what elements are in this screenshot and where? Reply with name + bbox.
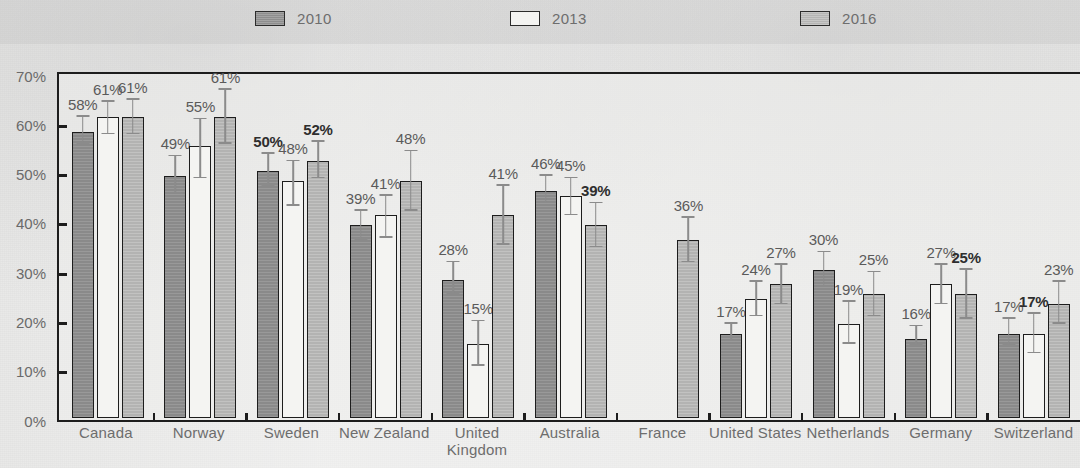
error-bar-cap-lower xyxy=(817,285,830,287)
bar[interactable] xyxy=(492,215,514,417)
bar-slot: 46% xyxy=(535,74,557,418)
bar[interactable] xyxy=(770,284,792,417)
x-axis-label-line1: Australia xyxy=(523,424,616,441)
bar[interactable] xyxy=(560,196,582,418)
bar[interactable] xyxy=(282,181,304,418)
error-bar xyxy=(317,142,319,179)
bar[interactable] xyxy=(189,146,211,417)
bar-value-label: 19% xyxy=(834,281,863,298)
x-axis-label: Germany xyxy=(894,424,987,468)
error-bar-cap-upper xyxy=(960,268,973,270)
bar[interactable] xyxy=(72,132,94,418)
error-bar-cap-lower xyxy=(194,177,207,179)
error-bar xyxy=(200,119,202,178)
error-bar-cap-upper xyxy=(354,209,367,211)
error-bar-cap-upper xyxy=(126,98,139,100)
bar-value-label: 23% xyxy=(1044,261,1073,278)
error-bar xyxy=(82,117,84,144)
error-bar-cap-lower xyxy=(724,340,737,342)
error-bar-cap-upper xyxy=(219,88,232,90)
bar[interactable] xyxy=(122,117,144,418)
error-bar-cap-lower xyxy=(261,184,274,186)
bar-group: 17%24%27% xyxy=(710,74,803,418)
bar[interactable] xyxy=(677,240,699,417)
bar[interactable] xyxy=(535,191,557,418)
error-bar-cap-lower xyxy=(910,344,923,346)
x-axis-label: Netherlands xyxy=(802,424,895,468)
bar-value-label: 15% xyxy=(463,300,492,317)
error-bar-cap-upper xyxy=(101,100,114,102)
error-bar-cap-upper xyxy=(447,261,460,263)
error-bar-cap-upper xyxy=(1052,280,1065,282)
error-bar-cap-lower xyxy=(1052,322,1065,324)
bar[interactable] xyxy=(720,334,742,418)
error-bar-cap-lower xyxy=(286,204,299,206)
bar[interactable] xyxy=(905,339,927,418)
y-axis-tick-label: 60% xyxy=(2,117,46,134)
bar-slot: 16% xyxy=(905,74,927,418)
bar[interactable] xyxy=(97,117,119,418)
bar[interactable] xyxy=(375,215,397,417)
bar[interactable] xyxy=(350,225,372,417)
bar[interactable] xyxy=(307,161,329,417)
legend-item-2013[interactable]: 2013 xyxy=(510,10,587,27)
y-axis-tick-label: 0% xyxy=(2,413,46,430)
error-bar xyxy=(688,218,690,262)
x-axis-label: United States xyxy=(709,424,802,468)
swatch-2010-icon xyxy=(255,11,285,26)
bar[interactable] xyxy=(400,181,422,418)
error-bar xyxy=(107,102,109,134)
bar-group: 36% xyxy=(617,74,710,418)
error-bar-cap-upper xyxy=(935,263,948,265)
x-axis-label: Canada xyxy=(60,424,153,468)
error-bar-cap-upper xyxy=(749,280,762,282)
legend-label: 2016 xyxy=(842,10,877,27)
error-bar xyxy=(385,196,387,238)
bar-slot: 27% xyxy=(770,74,792,418)
bar-slot: 28% xyxy=(442,74,464,418)
bar-value-label: 45% xyxy=(556,157,585,174)
bar[interactable] xyxy=(813,270,835,418)
x-axis-labels: CanadaNorwaySwedenNew ZealandUnitedKingd… xyxy=(60,424,1080,468)
legend-item-2010[interactable]: 2010 xyxy=(255,10,332,27)
error-bar xyxy=(915,326,917,346)
bar[interactable] xyxy=(214,117,236,418)
legend-item-2016[interactable]: 2016 xyxy=(800,10,877,27)
error-bar-cap-upper xyxy=(564,177,577,179)
swatch-2016-icon xyxy=(800,11,830,26)
bar-slot: 30% xyxy=(813,74,835,418)
error-bar-cap-lower xyxy=(867,315,880,317)
bar-slot: 48% xyxy=(400,74,422,418)
bar[interactable] xyxy=(442,280,464,418)
bar-slot xyxy=(627,74,649,418)
bar-slot: 58% xyxy=(72,74,94,418)
error-bar-cap-upper xyxy=(589,202,602,204)
bar[interactable] xyxy=(998,334,1020,418)
y-axis-tick-label: 50% xyxy=(2,166,46,183)
bar[interactable] xyxy=(745,299,767,417)
error-bar-cap-lower xyxy=(539,202,552,204)
error-bar xyxy=(730,324,732,341)
bar[interactable] xyxy=(257,171,279,417)
error-bar xyxy=(1033,314,1035,353)
bar-group: 39%41%48% xyxy=(339,74,432,418)
error-bar xyxy=(1058,282,1060,324)
bar-slot: 41% xyxy=(375,74,397,418)
x-axis-label-line1: Canada xyxy=(60,424,153,441)
error-bar xyxy=(873,272,875,316)
bar[interactable] xyxy=(585,225,607,417)
error-bar-cap-upper xyxy=(472,320,485,322)
bar-slot: 55% xyxy=(189,74,211,418)
bar[interactable] xyxy=(930,284,952,417)
bar-group: 50%48%52% xyxy=(247,74,340,418)
x-axis-label-line1: United States xyxy=(709,424,802,441)
bar[interactable] xyxy=(164,176,186,418)
bar-value-label: 25% xyxy=(859,251,888,268)
error-bar-cap-upper xyxy=(1002,317,1015,319)
x-axis-label: Sweden xyxy=(245,424,338,468)
error-bar-cap-lower xyxy=(960,317,973,319)
bar-value-label: 25% xyxy=(951,249,980,266)
error-bar-cap-upper xyxy=(404,150,417,152)
bar-value-label: 49% xyxy=(161,135,190,152)
error-bar-cap-upper xyxy=(1027,312,1040,314)
